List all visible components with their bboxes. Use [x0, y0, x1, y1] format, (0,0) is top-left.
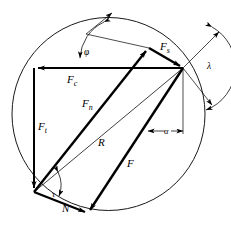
- label-Fs: Fs: [159, 40, 170, 55]
- label-R: R: [97, 136, 105, 148]
- shear-plane-extension-line: [86, 34, 149, 48]
- tau-angle-arc: [58, 172, 61, 196]
- lambda-ray-upper: [183, 32, 219, 68]
- label-N: N: [61, 202, 70, 214]
- phi-reference-ray: [86, 13, 112, 34]
- label-angle-alpha: α: [164, 126, 169, 136]
- label-angle-phi: φ: [84, 47, 89, 57]
- lambda-ray-lower: [183, 68, 212, 105]
- label-Ft: Ft: [37, 120, 48, 135]
- label-Fn: Fn: [81, 97, 93, 112]
- label-angle-lambda: λ: [206, 61, 211, 71]
- diagram-canvas: Fc Ft Fn Fs R F N φ λ α τ: [0, 0, 231, 238]
- label-angle-tau: τ: [52, 189, 56, 199]
- force-vector-Fn: [34, 51, 146, 192]
- label-F: F: [126, 157, 134, 169]
- resultant-extension-guide: [34, 68, 183, 192]
- label-Fc: Fc: [66, 73, 78, 88]
- merchant-force-circle-diagram: Fc Ft Fn Fs R F N φ λ α τ: [0, 0, 231, 238]
